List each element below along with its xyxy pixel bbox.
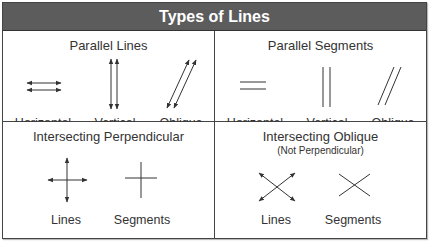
label-segments: Segments: [102, 213, 182, 227]
parallel-segments-icons: [215, 31, 426, 121]
label-lines: Lines: [26, 213, 106, 227]
parallel-vertical-lines-icon: [111, 59, 117, 109]
parallel-oblique-lines-icon: [167, 60, 196, 108]
label-lines: Lines: [236, 213, 316, 227]
types-of-lines-chart: Types of Lines Parallel Lines: [2, 2, 427, 239]
chart-title: Types of Lines: [3, 3, 426, 31]
label-segments: Segments: [313, 213, 393, 227]
panel-intersecting-perpendicular: Intersecting Perpendicular Lines Segment…: [3, 122, 214, 238]
perpendicular-segments-icon: [125, 162, 157, 198]
parallel-horizontal-segments-icon: [240, 82, 266, 89]
oblique-intersecting-segments-icon: [339, 174, 370, 196]
oblique-intersecting-lines-icon: [259, 173, 295, 201]
parallel-lines-icons: [3, 31, 214, 121]
parallel-horizontal-lines-icon: [27, 83, 61, 90]
panel-intersecting-oblique: Intersecting Oblique (Not Perpendicular)…: [215, 122, 426, 238]
parallel-vertical-segments-icon: [323, 67, 330, 107]
panel-parallel-lines: Parallel Lines Horizontal Vertical Obli: [3, 31, 214, 121]
parallel-oblique-segments-icon: [378, 67, 401, 105]
panel-parallel-segments: Parallel Segments Horizontal Vertical Ob…: [215, 31, 426, 121]
perpendicular-lines-icon: [48, 158, 87, 202]
